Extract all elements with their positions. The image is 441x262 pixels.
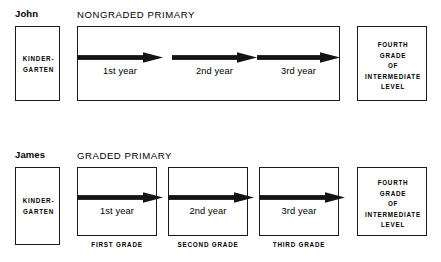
year-label-john-3: 3rd year (257, 66, 340, 76)
student-name-john: John (15, 8, 38, 19)
program-header-nongraded: NONGRADED PRIMARY (77, 9, 195, 20)
nongraded-primary-box (77, 26, 340, 101)
kindergarten-label-john-line2: GARTEN (16, 65, 61, 76)
year-label-james-1: 1st year (77, 206, 157, 216)
year-label-james-2: 2nd year (168, 206, 248, 216)
kindergarten-label-james-line1: KINDER- (16, 196, 61, 207)
grade-caption-first: FIRST GRADE (77, 241, 157, 248)
year-label-james-3: 3rd year (259, 206, 339, 216)
diagram-canvas: John NONGRADED PRIMARY KINDER- GARTEN 1s… (0, 0, 441, 262)
destination-box-john: FOURTH GRADE OF INTERMEDIATE LEVEL (357, 26, 427, 101)
kindergarten-box-john: KINDER- GARTEN (15, 26, 60, 101)
year-label-john-1: 1st year (77, 66, 163, 76)
progress-arrow-john-year1 (77, 52, 163, 63)
destination-john-line3: OF (358, 61, 428, 72)
progress-arrow-james-year1 (77, 192, 163, 203)
kindergarten-label-james-line2: GARTEN (16, 207, 61, 218)
progress-arrow-john-year2 (172, 52, 257, 63)
grade-caption-second: SECOND GRADE (168, 241, 248, 248)
program-header-graded: GRADED PRIMARY (77, 150, 172, 161)
progress-arrow-james-year3 (259, 192, 345, 203)
progress-arrow-james-year2 (168, 192, 254, 203)
destination-james-line5: LEVEL (358, 220, 428, 231)
destination-john-line2: GRADE (358, 51, 428, 62)
destination-john-line4: INTERMEDIATE (358, 72, 428, 83)
destination-james-line1: FOURTH (358, 178, 428, 189)
destination-james-line2: GRADE (358, 189, 428, 200)
kindergarten-box-james: KINDER- GARTEN (15, 167, 60, 245)
student-name-james: James (15, 149, 45, 160)
kindergarten-label-john-line1: KINDER- (16, 54, 61, 65)
year-label-john-2: 2nd year (172, 66, 257, 76)
destination-john-line1: FOURTH (358, 40, 428, 51)
destination-james-line4: INTERMEDIATE (358, 210, 428, 221)
destination-box-james: FOURTH GRADE OF INTERMEDIATE LEVEL (357, 167, 427, 236)
progress-arrow-john-year3 (257, 52, 340, 63)
destination-john-line5: LEVEL (358, 82, 428, 93)
destination-james-line3: OF (358, 199, 428, 210)
grade-caption-third: THIRD GRADE (259, 241, 339, 248)
